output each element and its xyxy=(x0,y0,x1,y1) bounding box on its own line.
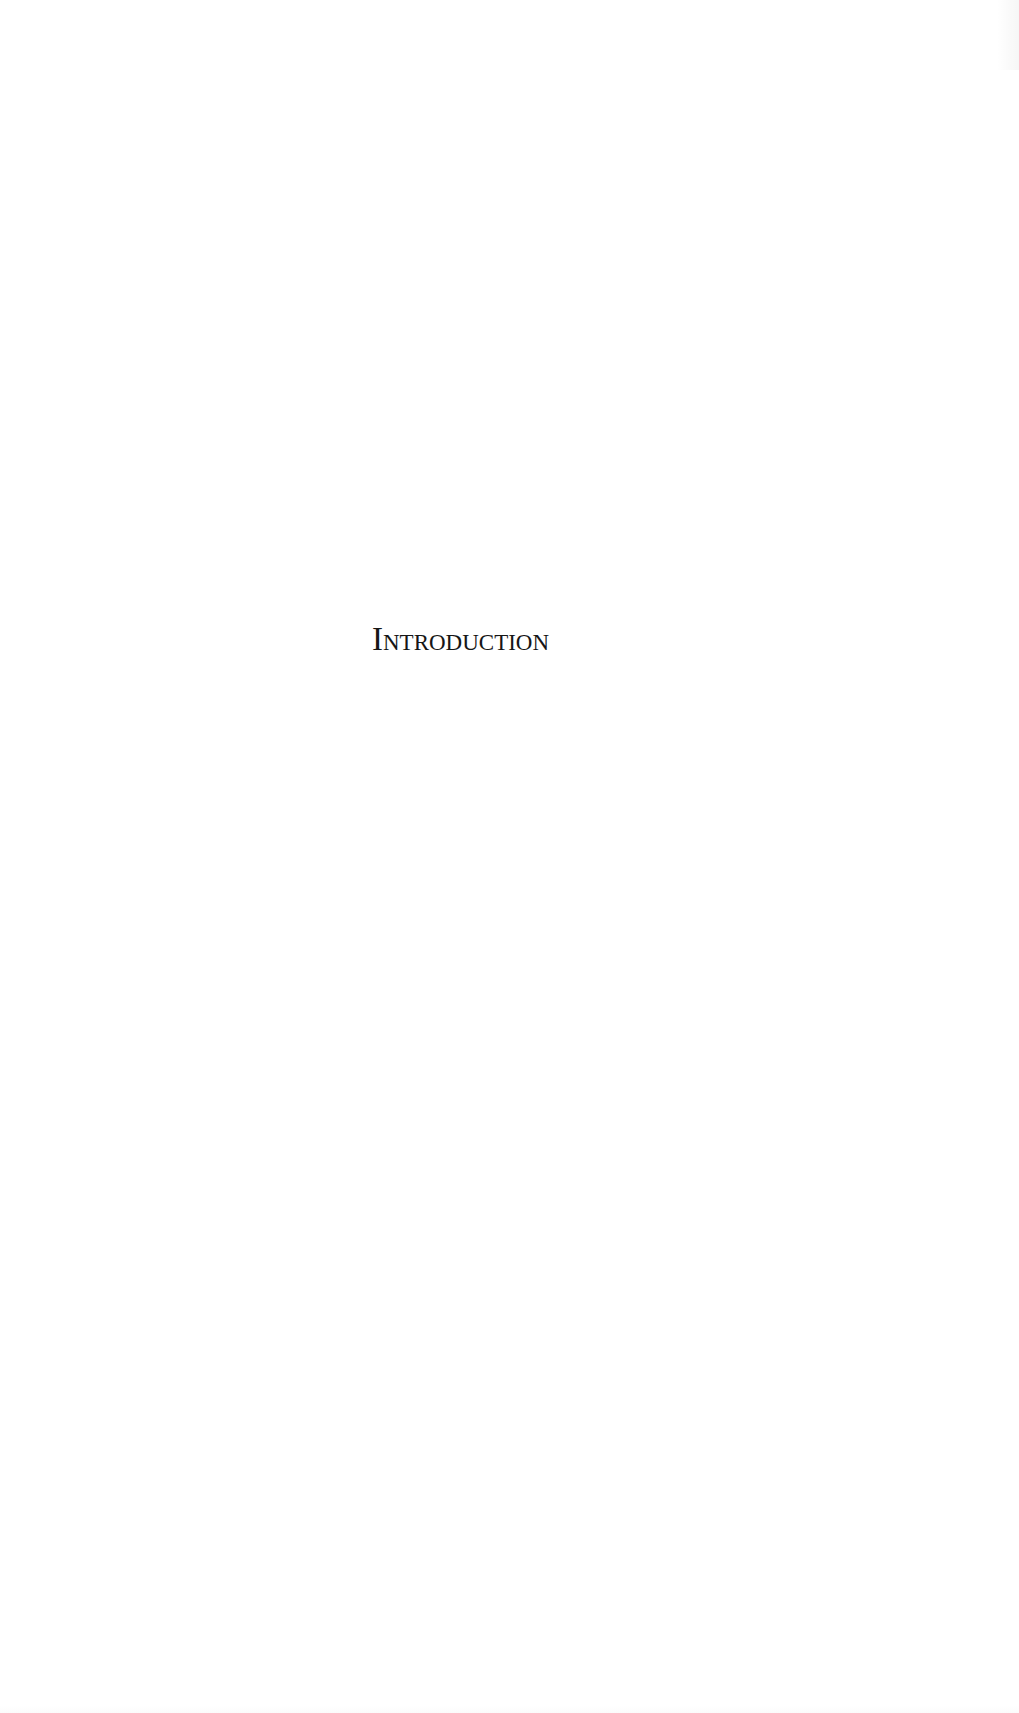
scan-edge-shadow xyxy=(997,0,1019,70)
chapter-heading: Introduction xyxy=(372,619,624,659)
scan-bottom-edge xyxy=(0,1705,1019,1713)
book-page: Introduction xyxy=(0,0,1019,1713)
